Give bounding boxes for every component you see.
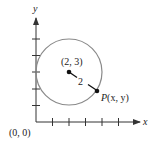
center-label: (2, 3) xyxy=(61,56,83,68)
x-axis-label: x xyxy=(142,116,148,127)
y-axis-label: y xyxy=(32,3,38,14)
point-p-coords: (x, y) xyxy=(107,92,129,104)
radius-label: 2 xyxy=(78,76,83,87)
circle-diagram: x y (0, 0) (2, 3) 2 P(x, y) xyxy=(0,0,153,143)
radius-segment xyxy=(69,72,77,78)
point-p-label: P(x, y) xyxy=(100,92,129,104)
axes: x y (0, 0) xyxy=(9,3,148,139)
origin-label: (0, 0) xyxy=(9,127,31,139)
point-p xyxy=(95,89,100,94)
